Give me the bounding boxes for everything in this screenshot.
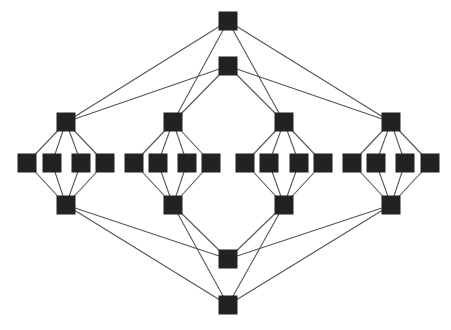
edge-B2-G4B [228, 205, 391, 305]
node-G2C3 [178, 154, 197, 173]
node-G2B [164, 196, 183, 215]
node-G3T [275, 113, 294, 132]
edge-A1-G4T [228, 21, 391, 122]
graph-diagram [0, 0, 451, 330]
node-G1C4 [96, 154, 115, 173]
node-B1 [219, 250, 238, 269]
node-G4C4 [421, 154, 440, 173]
node-G3C1 [236, 154, 255, 173]
node-G4B [382, 196, 401, 215]
node-G3C4 [314, 154, 333, 173]
node-G2C1 [125, 154, 144, 173]
node-layer [18, 12, 440, 315]
edge-B2-G1B [66, 205, 228, 305]
node-G4C2 [367, 154, 386, 173]
edge-A1-G1T [66, 21, 228, 122]
node-G1B [57, 196, 76, 215]
node-G2C2 [149, 154, 168, 173]
node-G4C1 [343, 154, 362, 173]
edge-A2-G4T [228, 66, 391, 122]
node-G3C3 [290, 154, 309, 173]
node-G1C3 [72, 154, 91, 173]
node-A2 [219, 57, 238, 76]
node-A1 [219, 12, 238, 31]
node-B2 [219, 296, 238, 315]
node-G1T [57, 113, 76, 132]
node-G4C3 [396, 154, 415, 173]
node-G4T [382, 113, 401, 132]
node-G1C1 [18, 154, 37, 173]
edge-B1-G4B [228, 205, 391, 259]
node-G1C2 [43, 154, 62, 173]
node-G2T [164, 113, 183, 132]
node-G2C4 [202, 154, 221, 173]
edge-B1-G1B [66, 205, 228, 259]
edge-A2-G1T [66, 66, 228, 122]
node-G3C2 [260, 154, 279, 173]
node-G3B [275, 196, 294, 215]
